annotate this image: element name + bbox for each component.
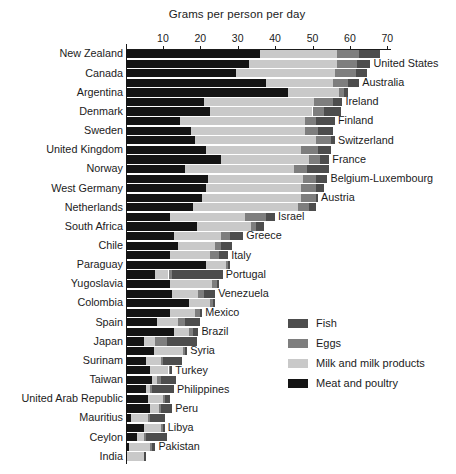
- bar-label-left: Taiwan: [89, 375, 125, 385]
- bar-segment-eggs: [178, 318, 185, 326]
- bar-segment-fish: [316, 117, 335, 125]
- bar-segment-meat: [126, 280, 171, 288]
- bar-label-right: Israel: [275, 212, 304, 222]
- bar-segment-eggs: [309, 155, 320, 163]
- bar-segment-eggs: [305, 127, 318, 135]
- legend-item: Milk and milk products: [288, 353, 453, 373]
- bar-segment-fish: [316, 175, 327, 183]
- bar-row: Yugoslavia: [126, 280, 220, 288]
- bar-label-left: Yugoslavia: [71, 279, 126, 289]
- bar-label-left: South Africa: [65, 222, 126, 232]
- bar-segment-milk: [127, 452, 144, 460]
- bar-segment-meat: [126, 299, 190, 307]
- bar-label-left: Sweden: [84, 126, 126, 136]
- bar-segment-fish: [318, 127, 333, 135]
- bar-row: France: [126, 155, 330, 163]
- bar-segment-meat: [126, 146, 206, 154]
- x-axis-tick-label: 10: [157, 32, 169, 44]
- bar-row: Peru: [126, 404, 173, 412]
- bar-label-right: Philippines: [174, 385, 229, 395]
- bar-row: India: [126, 452, 147, 460]
- legend-swatch: [288, 339, 308, 348]
- bar-segment-fish: [307, 165, 329, 173]
- bar-segment-meat: [126, 318, 158, 326]
- bar-label-right: Brazil: [198, 327, 228, 337]
- bar-segment-milk: [170, 280, 211, 288]
- bar-row: Portugal: [126, 270, 223, 278]
- x-axis-tick-label: 20: [194, 32, 206, 44]
- bar-label-right: Switzerland: [335, 136, 394, 146]
- bar-segment-milk: [178, 242, 215, 250]
- bar-label-right: France: [329, 155, 366, 165]
- bar-label-left: Mauritius: [79, 413, 125, 423]
- bar-segment-eggs: [301, 194, 316, 202]
- bar-segment-eggs: [294, 165, 307, 173]
- bar-segment-milk: [150, 404, 159, 412]
- bar-segment-meat: [126, 376, 152, 384]
- bar-segment-milk: [146, 357, 161, 365]
- bar-segment-fish: [172, 270, 222, 278]
- bar-row: Denmark: [126, 107, 341, 115]
- bar-segment-fish: [144, 452, 146, 460]
- bar-segment-meat: [126, 357, 147, 365]
- bar-label-right: Portugal: [223, 270, 266, 280]
- legend-swatch: [288, 359, 308, 368]
- bar-segment-meat: [126, 232, 175, 240]
- bar-segment-meat: [126, 60, 249, 68]
- bar-segment-milk: [170, 309, 194, 317]
- bar-row: Canada: [126, 69, 367, 77]
- bar-segment-milk: [202, 194, 301, 202]
- legend-swatch: [288, 379, 308, 388]
- bar-segment-eggs: [333, 79, 348, 87]
- bar-label-right: Turkey: [172, 366, 208, 376]
- bar-row: New Zealand: [126, 50, 380, 58]
- bar-segment-milk: [185, 165, 293, 173]
- bar-segment-fish: [161, 404, 172, 412]
- bar-segment-meat: [126, 165, 186, 173]
- bar-segment-fish: [185, 318, 200, 326]
- bar-segment-fish: [204, 290, 215, 298]
- bar-row: Colombia: [126, 299, 216, 307]
- legend-swatch: [288, 319, 308, 328]
- bar-label-right: Pakistan: [155, 442, 199, 452]
- bar-segment-meat: [126, 50, 261, 58]
- bar-row: Pakistan: [126, 443, 156, 451]
- bar-segment-eggs: [301, 184, 316, 192]
- bar-segment-meat: [126, 337, 145, 345]
- bar-row: Chile: [126, 242, 233, 250]
- bar-segment-eggs: [303, 175, 316, 183]
- bar-segment-meat: [126, 424, 145, 432]
- chart-axis-title: Grams per person per day: [0, 8, 456, 20]
- bar-segment-milk: [148, 395, 163, 403]
- bar-segment-milk: [206, 184, 301, 192]
- bar-segment-meat: [126, 203, 193, 211]
- bar-label-right: Ireland: [342, 97, 378, 107]
- bar-label-right: Italy: [228, 251, 251, 261]
- bar-segment-meat: [126, 242, 178, 250]
- bar-segment-fish: [152, 385, 174, 393]
- bar-label-left: New Zealand: [59, 49, 125, 59]
- bar-segment-fish: [230, 232, 243, 240]
- bar-segment-meat: [126, 251, 171, 259]
- bar-segment-milk: [197, 222, 251, 230]
- bar-segment-milk: [180, 117, 305, 125]
- bar-row: Switzerland: [126, 136, 335, 144]
- bar-segment-milk: [157, 318, 178, 326]
- bar-row: Greece: [126, 232, 244, 240]
- bar-row: Libya: [126, 424, 165, 432]
- bar-segment-meat: [126, 175, 208, 183]
- bar-segment-milk: [172, 290, 198, 298]
- bar-row: United Kingdom: [126, 146, 332, 154]
- bar-segment-milk: [174, 232, 221, 240]
- bar-segment-milk: [249, 60, 337, 68]
- bar-row: Brazil: [126, 328, 199, 336]
- bar-row: Surinam: [126, 357, 182, 365]
- bar-label-left: Paraguay: [77, 260, 126, 270]
- bar-row: Mexico: [126, 309, 203, 317]
- bar-segment-milk: [150, 366, 169, 374]
- bar-segment-eggs: [210, 251, 219, 259]
- bar-label-left: Norway: [86, 164, 125, 174]
- bar-label-right: Libya: [165, 423, 194, 433]
- bar-row: Ireland: [126, 98, 343, 106]
- bar-label-left: Ceylon: [89, 433, 125, 443]
